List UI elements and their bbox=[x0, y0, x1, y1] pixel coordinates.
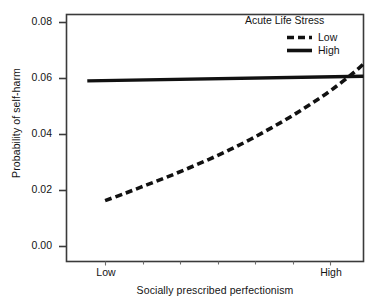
y-tick-label: 0.02 bbox=[18, 183, 52, 195]
chart-figure: 0.08 0.06 0.04 0.02 0.00 Low High Probab… bbox=[0, 0, 380, 303]
y-tick-label: 0.00 bbox=[18, 239, 52, 251]
legend-swatches bbox=[287, 38, 312, 51]
y-tick-label: 0.04 bbox=[18, 127, 52, 139]
legend-label-high: High bbox=[318, 44, 340, 56]
legend-title: Acute Life Stress bbox=[245, 14, 324, 26]
y-axis-ticks bbox=[59, 23, 67, 247]
x-tick-label-high: High bbox=[301, 266, 361, 278]
series-line-low bbox=[105, 64, 363, 201]
y-tick-label: 0.06 bbox=[18, 71, 52, 83]
y-tick-label: 0.08 bbox=[18, 15, 52, 27]
x-axis-title: Socially prescribed perfectionism bbox=[66, 284, 364, 296]
legend-label-low: Low bbox=[318, 31, 337, 43]
series-line-high bbox=[87, 76, 363, 81]
x-tick-label-low: Low bbox=[76, 266, 136, 278]
y-axis-title: Probability of self-harm bbox=[10, 43, 22, 203]
